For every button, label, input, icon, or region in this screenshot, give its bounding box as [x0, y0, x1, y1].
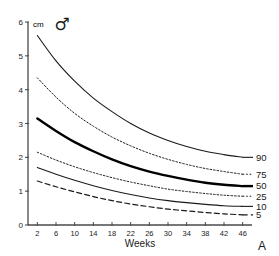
- percentile-label-75: 75: [256, 169, 267, 180]
- y-tick-label: 5: [19, 52, 24, 61]
- y-tick-label: 0: [19, 221, 24, 230]
- male-symbol-icon: ♂: [54, 14, 69, 34]
- x-axis-title: Weeks: [125, 238, 155, 249]
- x-tick-label: 38: [201, 229, 209, 238]
- y-tick-label: 3: [19, 120, 24, 129]
- x-tick-label: 2: [35, 229, 39, 238]
- x-tick-label: 34: [182, 229, 190, 238]
- x-tick-label: 18: [108, 229, 116, 238]
- growth-percentile-chart: 0123456 2610141822263034384246 cm ♂ 9075…: [0, 0, 279, 256]
- percentile-curve-labels: 90755025105: [256, 152, 267, 221]
- x-tick-label: 26: [145, 229, 153, 238]
- x-tick-label: 42: [220, 229, 228, 238]
- x-tick-label: 30: [164, 229, 172, 238]
- chart-canvas: 0123456 2610141822263034384246 cm ♂ 9075…: [0, 0, 279, 256]
- percentile-label-5: 5: [256, 209, 261, 220]
- x-tick-label: 10: [70, 229, 78, 238]
- percentile-label-90: 90: [256, 152, 267, 163]
- y-tick-label: 4: [19, 86, 24, 95]
- y-tick-label: 1: [19, 187, 24, 196]
- y-tick-label: 6: [19, 18, 24, 27]
- x-tick-label: 14: [89, 229, 97, 238]
- x-tick-label: 6: [54, 229, 58, 238]
- y-axis-unit-label: cm: [33, 20, 44, 29]
- panel-label: A: [258, 239, 266, 253]
- x-tick-label: 22: [126, 229, 134, 238]
- x-tick-label: 46: [238, 229, 246, 238]
- y-tick-label: 2: [19, 153, 24, 162]
